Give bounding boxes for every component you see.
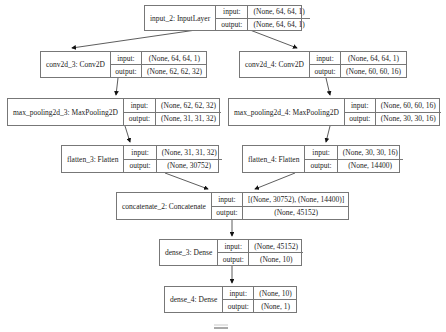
input-shape: (None, 64, 64, 1) — [341, 52, 406, 65]
node-max-pooling2d-4: max_pooling2d_4: MaxPooling2D input:outp… — [228, 98, 440, 126]
node-name: conv2d_4: Conv2D — [240, 52, 310, 77]
node-name: dense_3: Dense — [160, 240, 218, 265]
output-shape: (None, 45152) — [243, 207, 349, 220]
node-conv2d-4: conv2d_4: Conv2D input:output: (None, 64… — [239, 51, 407, 78]
edge-flat4-concat — [255, 173, 295, 189]
edge-pool4-flat4 — [326, 126, 330, 142]
node-name: flatten_4: Flatten — [243, 146, 305, 172]
edge-conv4-pool4 — [326, 78, 330, 95]
output-label: output: — [305, 160, 336, 173]
output-shape: (None, 64, 64, 1) — [248, 19, 309, 31]
output-shape: (None, 62, 62, 32) — [142, 65, 207, 77]
output-label: output: — [218, 253, 248, 265]
input-label: input: — [345, 99, 375, 113]
output-shape: (None, 31, 31, 32) — [156, 113, 221, 126]
output-label: output: — [212, 207, 242, 220]
input-shape: (None, 10) — [254, 287, 297, 300]
output-shape: (None, 10) — [249, 253, 303, 265]
edge-input-conv4 — [250, 30, 297, 48]
node-conv2d-3: conv2d_3: Conv2D input:output: (None, 64… — [40, 51, 207, 78]
input-shape: (None, 31, 31, 32) — [157, 146, 222, 160]
node-dense-3: dense_3: Dense input:output: (None, 4515… — [159, 239, 302, 266]
node-dense-4: dense_4: Dense input:output: (None, 10)(… — [164, 286, 297, 313]
node-input-2: input_2: InputLayer input:output: (None,… — [144, 5, 302, 31]
input-label: input: — [111, 52, 141, 65]
input-label: input: — [216, 6, 247, 19]
output-shape: (None, 1) — [254, 300, 297, 312]
input-label: input: — [310, 52, 340, 65]
node-name: max_pooling2d_4: MaxPooling2D — [229, 99, 345, 125]
input-label: input: — [124, 146, 155, 160]
output-label: output: — [216, 19, 247, 31]
output-label: output: — [223, 300, 253, 312]
input-shape: (None, 62, 62, 32) — [156, 99, 221, 113]
output-shape: (None, 30, 30, 16) — [376, 113, 441, 126]
edge-flat3-concat — [165, 173, 208, 189]
node-concatenate-2: concatenate_2: Concatenate input:output:… — [116, 192, 349, 220]
node-flatten-4: flatten_4: Flatten input:output: (None, … — [242, 145, 400, 173]
node-name: flatten_3: Flatten — [62, 146, 124, 172]
input-shape: [(None, 30752), (None, 14400)] — [243, 193, 349, 207]
input-shape: (None, 30, 30, 16) — [338, 146, 403, 160]
node-name: input_2: InputLayer — [145, 6, 216, 30]
node-flatten-3: flatten_3: Flatten input:output: (None, … — [61, 145, 219, 173]
input-label: input: — [305, 146, 336, 160]
input-label: input: — [218, 240, 248, 253]
input-label: input: — [223, 287, 253, 300]
node-max-pooling2d-3: max_pooling2d_3: MaxPooling2D input:outp… — [7, 98, 220, 126]
output-shape: (None, 14400) — [338, 160, 403, 173]
edge-conv3-pool3 — [116, 78, 118, 95]
node-name: concatenate_2: Concatenate — [117, 193, 212, 219]
output-label: output: — [124, 113, 155, 126]
output-shape: (None, 30752) — [157, 160, 222, 173]
input-label: input: — [124, 99, 155, 113]
input-shape: (None, 45152) — [249, 240, 303, 253]
edge-input-conv3 — [72, 30, 196, 48]
input-shape: (None, 60, 60, 16) — [376, 99, 441, 113]
output-label: output: — [345, 113, 375, 126]
input-shape: (None, 64, 64, 1) — [248, 6, 309, 19]
edge-pool3-flat3 — [125, 126, 130, 142]
output-label: output: — [124, 160, 155, 173]
figure-marker-icon — [212, 324, 230, 329]
output-label: output: — [111, 65, 141, 77]
node-name: conv2d_3: Conv2D — [41, 52, 111, 77]
node-name: max_pooling2d_3: MaxPooling2D — [8, 99, 124, 125]
input-label: input: — [212, 193, 242, 207]
node-name: dense_4: Dense — [165, 287, 223, 312]
input-shape: (None, 64, 64, 1) — [142, 52, 207, 65]
output-shape: (None, 60, 60, 16) — [341, 65, 406, 77]
output-label: output: — [310, 65, 340, 77]
